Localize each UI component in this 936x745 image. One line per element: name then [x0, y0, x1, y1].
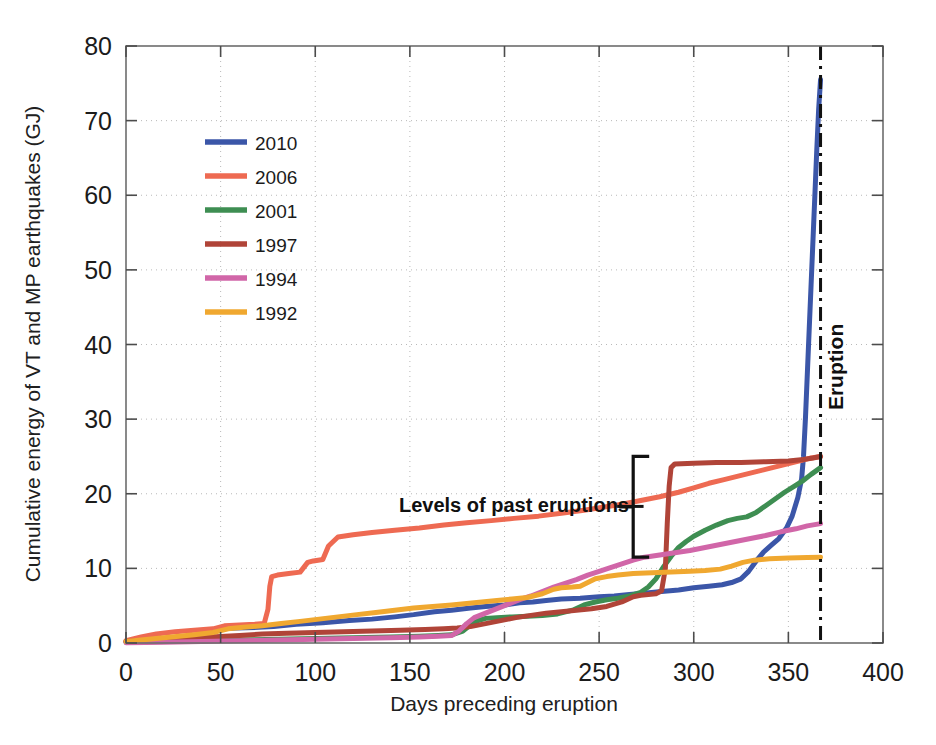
- x-tick-label: 50: [207, 658, 235, 686]
- y-tick-label: 70: [84, 107, 112, 135]
- x-tick-label: 0: [119, 658, 133, 686]
- legend-label-1997: 1997: [255, 235, 297, 256]
- chart-canvas: 050100150200250300350400 010203040506070…: [0, 0, 936, 745]
- x-tick-label: 150: [389, 658, 431, 686]
- x-axis-label: Days preceding eruption: [390, 692, 618, 715]
- legend-label-2006: 2006: [255, 167, 297, 188]
- y-tick-label: 60: [84, 181, 112, 209]
- y-tick-label: 30: [84, 405, 112, 433]
- y-tick-label: 50: [84, 256, 112, 284]
- x-tick-label: 200: [484, 658, 526, 686]
- x-tick-label: 100: [294, 658, 336, 686]
- legend-label-2010: 2010: [255, 133, 297, 154]
- x-tick-label: 250: [578, 658, 620, 686]
- y-axis-label: Cumulative energy of VT and MP earthquak…: [21, 106, 44, 583]
- x-tick-label: 300: [673, 658, 715, 686]
- y-tick-label: 80: [84, 32, 112, 60]
- x-tick-label: 400: [862, 658, 904, 686]
- legend-label-1994: 1994: [255, 269, 298, 290]
- annotation-levels-of-past-eruptions: Levels of past eruptions: [399, 494, 629, 516]
- y-tick-label: 20: [84, 480, 112, 508]
- x-tick-label: 350: [768, 658, 810, 686]
- y-tick-label: 10: [84, 554, 112, 582]
- y-tick-label: 0: [98, 629, 112, 657]
- chart-background: [0, 0, 936, 745]
- earthquake-energy-chart: 050100150200250300350400 010203040506070…: [0, 0, 936, 745]
- legend-label-1992: 1992: [255, 303, 297, 324]
- legend-label-2001: 2001: [255, 201, 297, 222]
- annotation-eruption: Eruption: [824, 324, 847, 410]
- y-tick-labels: 01020304050607080: [84, 32, 112, 657]
- y-tick-label: 40: [84, 331, 112, 359]
